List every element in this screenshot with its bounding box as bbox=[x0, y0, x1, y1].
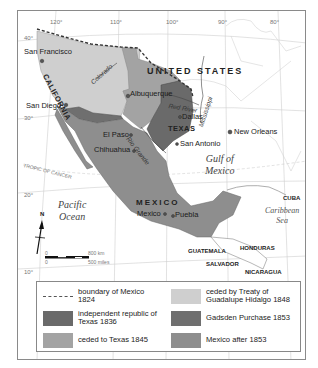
mexico-city-label: Mexico bbox=[137, 210, 161, 218]
mexico-1853-swatch-icon bbox=[171, 333, 201, 348]
texas-1836-swatch-icon bbox=[43, 311, 73, 326]
el-paso-label: El Paso bbox=[103, 131, 129, 139]
pacific-line2: Ocean bbox=[58, 211, 86, 223]
scale-mi-max: 500 miles bbox=[88, 260, 109, 265]
legend-item-ceded-texas-1845: ceded to Texas 1845 bbox=[43, 331, 167, 349]
gulf-line1: Gulf of bbox=[205, 153, 234, 165]
scale-km-max: 800 km bbox=[88, 251, 104, 256]
cuba-shape bbox=[227, 186, 286, 195]
caribbean-sea-label: Caribbean Sea bbox=[265, 206, 299, 225]
gulf-line2: Mexico bbox=[205, 165, 234, 177]
scale-km-zero: 0 bbox=[45, 251, 48, 256]
san-diego-label: San Diego bbox=[26, 102, 61, 110]
lat-30-label: 30° bbox=[24, 115, 33, 121]
dallas-label: Dallas bbox=[182, 113, 203, 121]
lat-20-label: 20° bbox=[24, 192, 33, 198]
map-legend: boundary of Mexico 1824 independent repu… bbox=[36, 281, 301, 352]
scale-mi-zero: 0 bbox=[45, 260, 48, 265]
albuquerque-label: Albuquerque bbox=[130, 90, 173, 98]
lat-10-label: 10° bbox=[24, 269, 33, 275]
legend-item-boundary-1824: boundary of Mexico 1824 bbox=[43, 286, 163, 306]
pacific-line1: Pacific bbox=[58, 199, 86, 211]
ceded-texas-1845-swatch-icon bbox=[43, 333, 73, 348]
united-states-label: UNITED STATES bbox=[147, 67, 243, 76]
salvador-label: SALVADOR bbox=[206, 261, 239, 267]
san-antonio-label: San Antonio bbox=[180, 140, 220, 148]
compass-rose bbox=[35, 220, 45, 254]
texas-label: TEXAS bbox=[168, 125, 196, 133]
honduras-label: HONDURAS bbox=[240, 245, 275, 251]
dashed-line-icon bbox=[43, 296, 73, 297]
lon-110-label: 110° bbox=[110, 19, 122, 25]
lon-80-label: 80° bbox=[270, 19, 279, 25]
legend-item-texas-1836: independent republic of Texas 1836 bbox=[43, 308, 167, 328]
san-francisco-label: San Francisco bbox=[24, 48, 72, 56]
new-orleans-label: New Orleans bbox=[234, 128, 277, 136]
guadalupe-hidalgo-swatch-icon bbox=[171, 289, 201, 304]
gadsden-swatch-icon bbox=[171, 311, 201, 326]
cuba-label: CUBA bbox=[283, 195, 300, 201]
caribbean-line1: Caribbean bbox=[265, 206, 299, 216]
puebla-label: Puebla bbox=[175, 211, 198, 219]
mexico-label: MEXICO bbox=[136, 199, 180, 207]
scale-bar bbox=[45, 256, 89, 259]
nicaragua-label: NICARAGUA bbox=[245, 269, 282, 275]
caribbean-line2: Sea bbox=[265, 216, 299, 226]
lat-40-label: 40° bbox=[24, 35, 33, 41]
lon-100-label: 100° bbox=[166, 19, 178, 25]
gulf-of-mexico-label: Gulf of Mexico bbox=[205, 153, 234, 176]
lon-120-label: 120° bbox=[50, 19, 62, 25]
legend-item-guadalupe-hidalgo: ceded by Treaty of Guadalupe Hidalgo 184… bbox=[171, 286, 299, 306]
pacific-ocean-label: Pacific Ocean bbox=[58, 199, 86, 222]
legend-item-mexico-1853: Mexico after 1853 bbox=[171, 331, 299, 349]
lon-90-label: 90° bbox=[218, 19, 227, 25]
north-arrow-label: N bbox=[40, 211, 44, 217]
chihuahua-label: Chihuahua bbox=[94, 146, 130, 154]
guatemala-label: GUATEMALA bbox=[188, 248, 226, 254]
legend-item-gadsden: Gadsden Purchase 1853 bbox=[171, 309, 299, 327]
